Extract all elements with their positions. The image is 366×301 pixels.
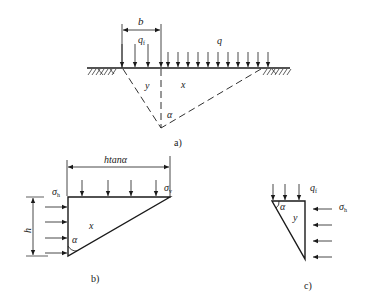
figure-a: b qf q <box>87 15 291 149</box>
label-qf: qf <box>138 34 145 46</box>
region-y-label: y <box>292 212 298 223</box>
angle-alpha-label: α <box>72 234 78 245</box>
load-arrows-q <box>168 52 268 67</box>
diagram-canvas: b qf q <box>0 0 366 301</box>
region-y-label: y <box>144 80 150 91</box>
load-arrows-sigma-h <box>313 209 332 257</box>
load-arrows-qf <box>273 184 299 200</box>
label-htan-alpha: htanα <box>104 154 128 165</box>
wedge-x-triangle <box>68 197 170 256</box>
angle-arc <box>276 201 279 208</box>
load-arrows-sigma-h <box>45 207 67 253</box>
label-h: h <box>22 228 33 233</box>
label-sigma-h: σh <box>52 186 60 198</box>
angle-alpha-label: α <box>280 201 286 212</box>
label-b: b <box>138 15 144 27</box>
ground-hatch-left <box>88 69 116 75</box>
load-arrows-qf <box>122 44 161 67</box>
caption-b: b) <box>91 273 99 285</box>
angle-alpha-label: α <box>167 109 173 120</box>
label-qf: qf <box>310 182 317 194</box>
figure-c: qf α y σh c) <box>272 182 347 292</box>
caption-a: a) <box>174 137 182 149</box>
figure-b: htanα σv σh x α h b) <box>22 154 172 285</box>
load-arrows-sigma-v <box>82 180 156 196</box>
label-sigma-h: σh <box>339 201 347 213</box>
failure-wedge-lines <box>123 69 261 128</box>
label-sigma-v: σv <box>164 182 172 194</box>
region-x-label: x <box>180 79 186 90</box>
region-x-label: x <box>88 220 94 231</box>
ground-hatch-right <box>263 69 291 75</box>
caption-c: c) <box>304 280 312 292</box>
label-q: q <box>217 35 222 46</box>
angle-arc <box>68 246 77 251</box>
wedge-y-triangle <box>272 201 305 259</box>
